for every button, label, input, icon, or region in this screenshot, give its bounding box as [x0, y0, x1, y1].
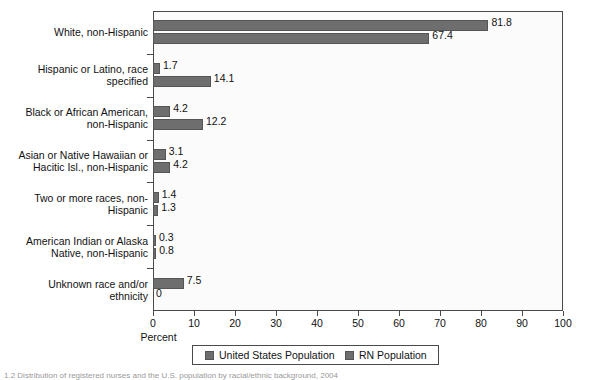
x-axis-title-label: Percent — [140, 331, 176, 343]
category-label-line: non-Hispanic — [6, 118, 148, 130]
bar-group-item: 3.1 — [153, 149, 563, 160]
bar[interactable] — [153, 119, 203, 130]
bar[interactable] — [153, 248, 156, 259]
x-axis-tick-label: 90 — [502, 317, 542, 329]
legend-swatch-icon — [205, 351, 214, 360]
bar-value-label: 0.3 — [159, 232, 174, 243]
legend-label: United States Population — [219, 349, 335, 362]
legend-item-rn-population[interactable]: RN Population — [345, 349, 427, 362]
x-axis-tick — [563, 311, 564, 316]
x-axis-tick — [194, 311, 195, 316]
x-axis-tick-label: 0 — [133, 317, 173, 329]
category-label-line: Hispanic or Latino, race — [6, 63, 148, 75]
category-label-line: ethnicity — [6, 290, 148, 302]
bar-value-label: 0.8 — [159, 245, 174, 256]
bar-group-item: 7.5 — [153, 278, 563, 289]
category-label: Unknown race and/orethnicity — [6, 278, 148, 302]
bar-group-item: 81.8 — [153, 20, 563, 31]
bar-group-item: 1.3 — [153, 205, 563, 216]
category-tick — [147, 54, 153, 55]
bar[interactable] — [153, 76, 211, 87]
bar-group-item: 67.4 — [153, 33, 563, 44]
category-label-line: Two or more races, non- — [6, 192, 148, 204]
category-label-line: Unknown race and/or — [6, 278, 148, 290]
category-label-line: specified — [6, 75, 148, 87]
x-axis-tick-label: 40 — [297, 317, 337, 329]
figure-caption: 1.2 Distribution of registered nurses an… — [4, 371, 589, 380]
bar-group-item: 0.8 — [153, 248, 563, 259]
bar-group-item: 1.4 — [153, 192, 563, 203]
bar-value-label: 1.7 — [163, 60, 178, 71]
category-tick — [147, 225, 153, 226]
x-axis-tick — [399, 311, 400, 316]
x-axis-tick — [358, 311, 359, 316]
bar-value-label: 4.2 — [173, 159, 188, 170]
category-label: Two or more races, non-Hispanic — [6, 192, 148, 216]
x-axis-tick — [153, 311, 154, 316]
category-tick — [147, 140, 153, 141]
category-tick — [147, 182, 153, 183]
category-tick — [147, 97, 153, 98]
bar[interactable] — [153, 63, 160, 74]
category-label: American Indian or AlaskaNative, non-His… — [6, 235, 148, 259]
bar[interactable] — [153, 192, 159, 203]
legend-item-united-states-population[interactable]: United States Population — [205, 349, 335, 362]
x-axis-tick-label: 50 — [338, 317, 378, 329]
bar-value-label: 14.1 — [214, 73, 234, 84]
category-label: Black or African American,non-Hispanic — [6, 106, 148, 130]
bar-value-label: 7.5 — [187, 275, 202, 286]
x-axis-tick-label: 70 — [420, 317, 460, 329]
bar-group-item: 0.3 — [153, 235, 563, 246]
x-axis-title: Percent — [0, 331, 589, 343]
x-axis-tick — [235, 311, 236, 316]
x-axis-tick — [440, 311, 441, 316]
category-label-line: Hispanic — [6, 204, 148, 216]
bar-group-item: 4.2 — [153, 162, 563, 173]
bar[interactable] — [153, 162, 170, 173]
x-axis-tick-label: 80 — [461, 317, 501, 329]
bar-value-label: 81.8 — [491, 17, 511, 28]
category-label-line: Asian or Native Hawaiian or — [6, 149, 148, 161]
chart-legend: United States Population RN Population — [192, 345, 439, 365]
x-axis-tick-label: 30 — [256, 317, 296, 329]
bar-group-item: 14.1 — [153, 76, 563, 87]
x-axis-tick-label: 20 — [215, 317, 255, 329]
x-axis-tick-label: 60 — [379, 317, 419, 329]
bar[interactable] — [153, 149, 166, 160]
bar-value-label: 12.2 — [206, 116, 226, 127]
bar[interactable] — [153, 106, 170, 117]
category-label-line: White, non-Hispanic — [6, 26, 148, 38]
bar[interactable] — [153, 235, 156, 246]
bar-value-label: 3.1 — [169, 146, 184, 157]
bar-value-label: 67.4 — [432, 30, 452, 41]
bar-value-label: 1.3 — [161, 202, 176, 213]
category-tick — [147, 268, 153, 269]
legend-swatch-icon — [345, 351, 354, 360]
bar[interactable] — [153, 33, 429, 44]
category-label-line: Hacitic Isl., non-Hispanic — [6, 161, 148, 173]
category-label-line: American Indian or Alaska — [6, 235, 148, 247]
bar-value-label: 4.2 — [173, 103, 188, 114]
category-label-line: Native, non-Hispanic — [6, 247, 148, 259]
bar-group-item: 12.2 — [153, 119, 563, 130]
x-axis-tick — [276, 311, 277, 316]
legend-label: RN Population — [359, 349, 427, 362]
x-axis-tick — [481, 311, 482, 316]
plot-area — [153, 11, 563, 311]
x-axis-tick-label: 10 — [174, 317, 214, 329]
category-label: Asian or Native Hawaiian orHacitic Isl.,… — [6, 149, 148, 173]
bar-value-label: 0 — [156, 288, 162, 299]
category-label: Hispanic or Latino, racespecified — [6, 63, 148, 87]
category-label-line: Black or African American, — [6, 106, 148, 118]
bar-value-label: 1.4 — [162, 189, 177, 200]
bar[interactable] — [153, 205, 158, 216]
x-axis-tick-label: 100 — [543, 317, 583, 329]
bar-group-item: 0 — [153, 291, 563, 302]
category-label: White, non-Hispanic — [6, 26, 148, 38]
x-axis-tick — [522, 311, 523, 316]
x-axis-tick — [317, 311, 318, 316]
chart-figure: White, non-HispanicHispanic or Latino, r… — [0, 0, 589, 380]
